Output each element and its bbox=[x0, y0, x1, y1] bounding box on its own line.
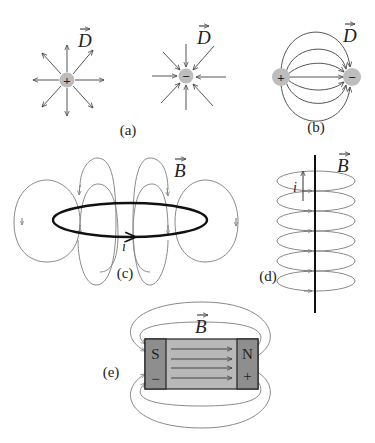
vector-b-label-c: B bbox=[174, 160, 186, 181]
vector-b-label-d: B bbox=[337, 155, 349, 176]
panel-a: + D − D (a) bbox=[33, 26, 226, 139]
panel-label-b: (b) bbox=[307, 119, 325, 136]
vector-d-label-a1: D bbox=[77, 30, 92, 51]
panel-c: i B (c) bbox=[14, 158, 238, 285]
bar-magnet: S − N + bbox=[145, 339, 258, 389]
panel-e: S − N + B (e) bbox=[103, 302, 271, 428]
panel-label-d: (d) bbox=[259, 268, 277, 285]
positive-charge-radial-field: + bbox=[33, 45, 104, 116]
panel-b: + − D (b) bbox=[272, 24, 361, 136]
north-sign: + bbox=[243, 368, 251, 384]
vector-d-label-a2: D bbox=[196, 27, 211, 48]
field-diagram: + D − D (a) bbox=[0, 0, 375, 443]
negative-charge-radial-field: − bbox=[152, 44, 226, 110]
vector-d-label-b: D bbox=[342, 25, 357, 46]
panel-label-e: (e) bbox=[103, 364, 120, 381]
north-label: N bbox=[242, 346, 253, 362]
vector-b-label-e: B bbox=[195, 316, 207, 337]
negative-sign: − bbox=[182, 69, 189, 84]
negative-sign-b: − bbox=[348, 70, 355, 85]
positive-sign-b: + bbox=[277, 70, 284, 85]
current-label-d: i bbox=[293, 180, 297, 195]
south-sign: − bbox=[151, 371, 159, 387]
panel-label-c: (c) bbox=[117, 265, 134, 282]
south-label: S bbox=[151, 346, 159, 362]
current-label-c: i bbox=[122, 239, 126, 254]
panel-label-a: (a) bbox=[120, 122, 137, 139]
positive-sign: + bbox=[63, 73, 70, 88]
current-loop bbox=[53, 203, 207, 237]
panel-d: i B (d) bbox=[259, 154, 355, 313]
